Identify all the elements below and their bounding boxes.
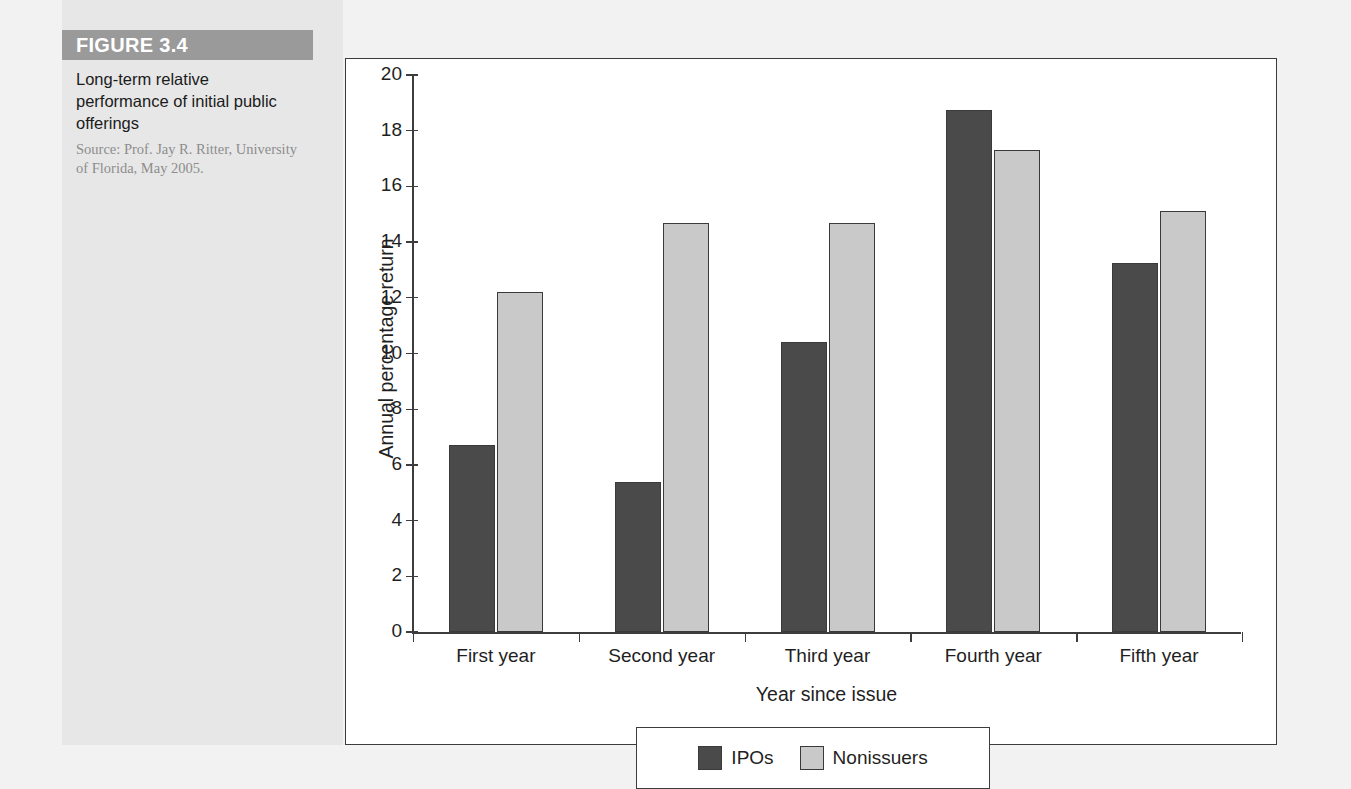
y-axis-tick — [406, 74, 418, 75]
chart-frame: Annual percentage return Year since issu… — [345, 58, 1277, 745]
y-axis-tick-label: 6 — [346, 453, 402, 475]
y-axis-tick-label: 20 — [346, 63, 402, 85]
x-axis-category-label: Third year — [745, 645, 911, 667]
figure-number-banner: FIGURE 3.4 — [62, 30, 313, 60]
y-axis-tick — [406, 464, 418, 465]
bar-nonissuers-third-year — [829, 223, 875, 632]
y-axis-tick-label: 14 — [346, 230, 402, 252]
y-axis-tick-label: 8 — [346, 397, 402, 419]
y-axis-tick — [406, 576, 418, 577]
x-axis-tick — [745, 632, 746, 642]
y-axis-tick — [406, 353, 418, 354]
x-axis-title: Year since issue — [412, 683, 1241, 706]
y-axis-tick — [406, 409, 418, 410]
x-axis-tick — [579, 632, 580, 642]
x-axis-line — [412, 632, 1241, 634]
bar-ipos-third-year — [781, 342, 827, 632]
bar-nonissuers-fourth-year — [994, 150, 1040, 632]
figure-source-note: Source: Prof. Jay R. Ritter, University … — [76, 140, 308, 178]
legend-label-nonissuers: Nonissuers — [833, 747, 928, 769]
legend-item-nonissuers: Nonissuers — [800, 746, 928, 770]
x-axis-category-label: Second year — [579, 645, 745, 667]
x-axis-category-label: First year — [413, 645, 579, 667]
x-axis-tick — [910, 632, 911, 642]
y-axis-tick — [406, 186, 418, 187]
bar-nonissuers-second-year — [663, 223, 709, 632]
bar-ipos-fifth-year — [1112, 263, 1158, 632]
y-axis-tick-label: 12 — [346, 286, 402, 308]
y-axis-tick — [406, 520, 418, 521]
x-axis-category-label: Fifth year — [1076, 645, 1242, 667]
bar-nonissuers-fifth-year — [1160, 211, 1206, 632]
bar-ipos-fourth-year — [946, 110, 992, 632]
y-axis-tick-label: 16 — [346, 174, 402, 196]
figure-caption-panel: FIGURE 3.4 Long-term relative performanc… — [62, 0, 343, 745]
y-axis-tick — [406, 130, 418, 131]
y-axis-line — [412, 75, 414, 634]
bar-ipos-first-year — [449, 445, 495, 632]
figure-title: Long-term relative performance of initia… — [76, 68, 301, 134]
y-axis-tick — [406, 297, 418, 298]
chart-legend: IPOs Nonissuers — [636, 727, 990, 789]
legend-label-ipos: IPOs — [731, 747, 773, 769]
legend-item-ipos: IPOs — [698, 746, 773, 770]
y-axis-tick-label: 0 — [346, 620, 402, 642]
y-axis-tick-label: 4 — [346, 509, 402, 531]
bar-ipos-second-year — [615, 482, 661, 632]
y-axis-tick — [406, 631, 418, 632]
plot-area: Annual percentage return Year since issu… — [346, 59, 1278, 746]
legend-swatch-nonissuers — [800, 746, 824, 770]
x-axis-tick — [1242, 632, 1243, 642]
bar-nonissuers-first-year — [497, 292, 543, 632]
x-axis-tick — [413, 632, 414, 642]
legend-swatch-ipos — [698, 746, 722, 770]
y-axis-tick-label: 18 — [346, 119, 402, 141]
y-axis-tick — [406, 241, 418, 242]
y-axis-tick-label: 2 — [346, 564, 402, 586]
figure-number-label: FIGURE 3.4 — [76, 34, 188, 57]
y-axis-tick-label: 10 — [346, 342, 402, 364]
x-axis-category-label: Fourth year — [910, 645, 1076, 667]
x-axis-tick — [1076, 632, 1077, 642]
